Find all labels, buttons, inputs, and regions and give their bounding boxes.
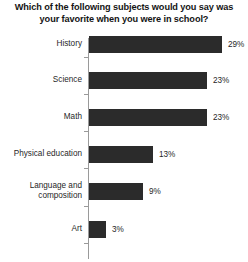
bar-chart-figure: Which of the following subjects would yo… — [0, 0, 248, 262]
bar-math — [89, 109, 207, 126]
value-label-math: 23% — [213, 109, 229, 126]
category-label-math: Math — [0, 112, 82, 122]
bar-history — [89, 36, 222, 53]
bar-science — [89, 72, 207, 89]
bar-row: History 29% — [0, 36, 248, 72]
chart-title: Which of the following subjects would yo… — [6, 2, 242, 25]
value-label-physical-education: 13% — [159, 146, 175, 163]
category-label-science: Science — [0, 75, 82, 85]
category-label-language-and-composition: Language and composition — [0, 181, 82, 200]
bar-row: Language and composition 9% — [0, 183, 248, 219]
bar-language-and-composition — [89, 183, 143, 200]
bar-row: Physical education 13% — [0, 146, 248, 182]
category-label-physical-education: Physical education — [0, 149, 82, 159]
chart-title-line-2: your favorite when you were in school? — [6, 14, 242, 26]
bar-row: Math 23% — [0, 109, 248, 145]
chart-title-line-1: Which of the following subjects would yo… — [6, 2, 242, 14]
bar-physical-education — [89, 146, 153, 163]
value-label-history: 29% — [228, 36, 244, 53]
value-label-art: 3% — [112, 221, 124, 238]
bar-art — [89, 221, 106, 238]
bar-row: Science 23% — [0, 72, 248, 108]
category-label-art: Art — [0, 224, 82, 234]
plot-area: History 29% Science 23% Math 23% Physica… — [0, 36, 248, 260]
bar-row: Art 3% — [0, 221, 248, 257]
value-label-science: 23% — [213, 72, 229, 89]
value-label-language-and-composition: 9% — [149, 183, 161, 200]
category-label-history: History — [0, 39, 82, 49]
